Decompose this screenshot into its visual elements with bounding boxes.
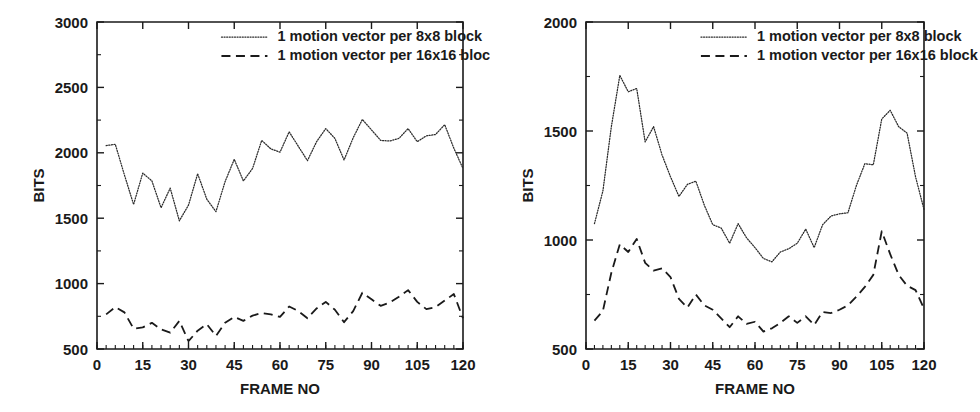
figure-container: 5001000150020002500300001530456075901051… — [0, 0, 980, 412]
y-axis-title: BITS — [30, 168, 47, 202]
series-line-1 — [106, 119, 463, 220]
chart-panel-left: 5001000150020002500300001530456075901051… — [0, 0, 490, 412]
y-tick-label: 1500 — [544, 123, 577, 140]
legend-label-2: 1 motion vector per 16x16 block — [757, 47, 979, 63]
x-tick-label: 15 — [134, 356, 151, 373]
y-tick-label: 1500 — [55, 210, 88, 227]
legend-label-1: 1 motion vector per 8x8 block — [277, 28, 483, 44]
x-tick-label: 75 — [317, 356, 334, 373]
legend-label-2: 1 motion vector per 16x16 block — [277, 47, 490, 63]
y-tick-label: 500 — [63, 341, 88, 358]
x-tick-label: 0 — [93, 356, 101, 373]
y-axis-left: 50010001500200025003000 — [55, 14, 463, 358]
x-tick-label: 60 — [747, 356, 764, 373]
x-tick-label: 90 — [831, 356, 848, 373]
chart-svg-right: 5001000150020000153045607590105120FRAME … — [490, 0, 980, 412]
y-tick-label: 1000 — [544, 232, 577, 249]
chart-svg-left: 5001000150020002500300001530456075901051… — [0, 0, 490, 412]
x-tick-label: 75 — [789, 356, 806, 373]
x-tick-label: 45 — [704, 356, 721, 373]
x-tick-label: 0 — [582, 356, 590, 373]
x-axis-left: 0153045607590105120 — [93, 22, 476, 373]
x-tick-label: 105 — [869, 356, 894, 373]
y-tick-label: 2500 — [55, 79, 88, 96]
x-tick-label: 105 — [405, 356, 430, 373]
x-tick-label: 60 — [272, 356, 289, 373]
legend-left: 1 motion vector per 8x8 block1 motion ve… — [221, 28, 490, 63]
plot-frame — [97, 22, 463, 349]
x-tick-label: 90 — [363, 356, 380, 373]
x-tick-label: 30 — [180, 356, 197, 373]
y-tick-label: 3000 — [55, 14, 88, 31]
x-axis-title: FRAME NO — [715, 380, 795, 397]
y-axis-title: BITS — [519, 168, 536, 202]
x-tick-label: 30 — [662, 356, 679, 373]
x-tick-label: 120 — [911, 356, 936, 373]
x-tick-label: 45 — [226, 356, 243, 373]
y-tick-label: 500 — [552, 341, 577, 358]
series-line-1 — [594, 75, 924, 261]
x-tick-label: 120 — [450, 356, 475, 373]
y-tick-label: 2000 — [55, 144, 88, 161]
series-line-2 — [106, 290, 463, 341]
chart-panel-right: 5001000150020000153045607590105120FRAME … — [490, 0, 980, 412]
x-axis-right: 0153045607590105120 — [582, 22, 937, 373]
x-axis-title: FRAME NO — [240, 380, 320, 397]
y-tick-label: 1000 — [55, 275, 88, 292]
legend-label-1: 1 motion vector per 8x8 block — [757, 28, 963, 44]
x-tick-label: 15 — [620, 356, 637, 373]
plot-frame — [586, 22, 924, 349]
y-tick-label: 2000 — [544, 14, 577, 31]
series-line-2 — [594, 231, 924, 331]
y-axis-right: 500100015002000 — [544, 14, 924, 358]
legend-right: 1 motion vector per 8x8 block1 motion ve… — [701, 28, 979, 63]
